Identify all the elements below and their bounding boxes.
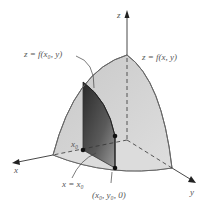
leader-base	[111, 172, 112, 183]
y-axis-label: y	[190, 188, 194, 197]
trace-curve-label: z = f(x₀, y)	[24, 50, 62, 59]
z-axis-label: z	[117, 11, 121, 20]
plane-label: x = x₀	[62, 180, 84, 189]
diagram-canvas: z x y z = f(x₀, y) z = f(x, y) x₀ x = x₀…	[0, 0, 203, 211]
x-axis	[18, 155, 53, 162]
x0-label: x₀	[71, 140, 78, 149]
surface-diagram	[0, 0, 203, 211]
x0-point	[81, 148, 86, 153]
y-axis	[172, 168, 190, 179]
base-point-label: (x₀, y₀, 0)	[92, 191, 126, 200]
z-axis-arrow-icon	[125, 10, 130, 18]
surface-point	[113, 134, 118, 139]
surface-label: z = f(x, y)	[142, 53, 177, 62]
y-axis-arrow-icon	[188, 176, 196, 183]
x-axis-label: x	[14, 166, 18, 175]
base-point	[113, 166, 118, 171]
